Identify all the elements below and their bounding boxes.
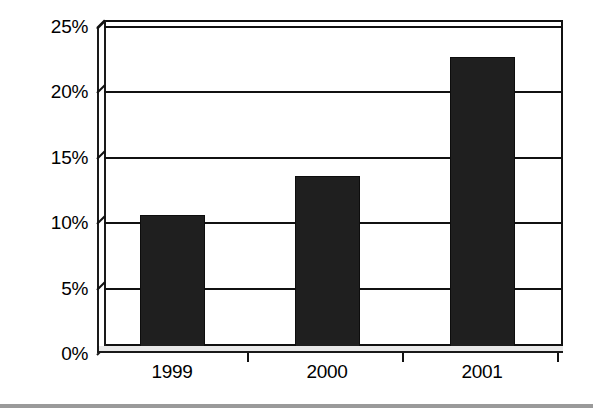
x-axis-line (97, 351, 563, 353)
x-axis: 1999 2000 2001 (0, 362, 593, 392)
y-axis: 25% 20% 15% 10% 5% 0% (0, 0, 88, 420)
y-tick-label-5: 5% (0, 279, 88, 298)
x-tick-2 (402, 353, 404, 362)
x-tick-label-2000: 2000 (306, 362, 347, 381)
bar-2000 (295, 176, 360, 352)
x-tick-label-1999: 1999 (151, 362, 192, 381)
gridline-25 (104, 26, 563, 28)
plot-area (97, 20, 563, 353)
y-tick-label-15: 15% (0, 148, 88, 167)
footer-divider (0, 404, 593, 408)
y-tick-label-0: 0% (0, 344, 88, 363)
axis-wall-inner-edge (104, 20, 106, 346)
bar-2001 (450, 57, 515, 351)
x-tick-label-2001: 2001 (461, 362, 502, 381)
x-tick-1 (247, 353, 249, 362)
y-tick-label-10: 10% (0, 213, 88, 232)
axis-wall-outer-edge (97, 27, 99, 353)
bar-chart-figure: 25% 20% 15% 10% 5% 0% (0, 0, 593, 420)
x-tick-3 (557, 353, 559, 362)
bar-1999 (140, 215, 205, 352)
y-tick-label-20: 20% (0, 82, 88, 101)
y-tick-label-25: 25% (0, 17, 88, 36)
